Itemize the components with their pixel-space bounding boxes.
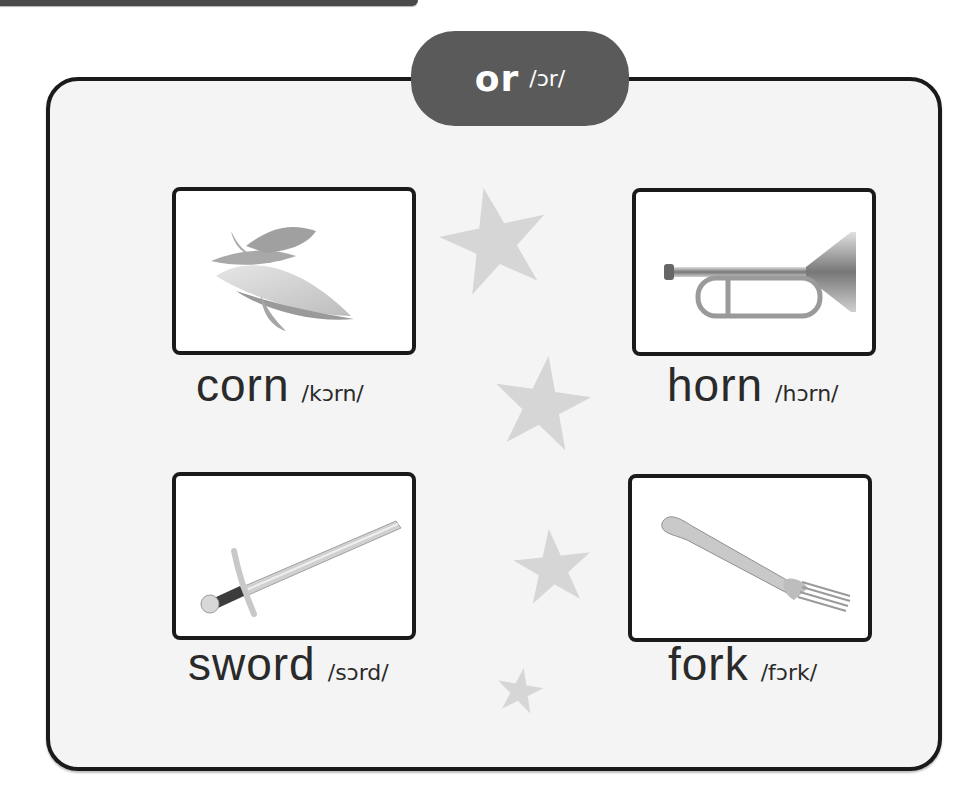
word-text: fork bbox=[668, 637, 749, 691]
word-text: horn bbox=[667, 358, 763, 412]
horn-label: horn /hɔrn/ bbox=[667, 358, 839, 412]
sword-picture-card bbox=[172, 472, 416, 640]
corn-label: corn /kɔrn/ bbox=[196, 358, 364, 412]
star-icon: ★ bbox=[478, 333, 606, 472]
word-ipa: /kɔrn/ bbox=[301, 381, 363, 406]
top-bar-decoration bbox=[0, 0, 418, 6]
star-icon: ★ bbox=[503, 513, 603, 622]
horn-picture-card bbox=[632, 188, 876, 356]
word-ipa: /sɔrd/ bbox=[328, 660, 389, 685]
sword-icon bbox=[176, 476, 412, 636]
phonics-pattern: or bbox=[475, 58, 520, 99]
phonics-pattern-ipa: /ɔr/ bbox=[529, 66, 565, 91]
sword-label: sword /sɔrd/ bbox=[188, 637, 389, 691]
word-text: sword bbox=[188, 637, 316, 691]
bugle-horn-icon bbox=[636, 192, 872, 352]
star-icon: ★ bbox=[488, 656, 551, 724]
corn-icon bbox=[176, 191, 412, 351]
word-ipa: /hɔrn/ bbox=[775, 381, 838, 406]
phonics-header-pill: or /ɔr/ bbox=[411, 31, 629, 126]
corn-picture-card bbox=[172, 187, 416, 355]
word-text: corn bbox=[196, 358, 289, 412]
fork-picture-card bbox=[628, 474, 872, 642]
fork-label: fork /fɔrk/ bbox=[668, 637, 817, 691]
word-ipa: /fɔrk/ bbox=[761, 660, 817, 685]
fork-icon bbox=[632, 478, 868, 638]
